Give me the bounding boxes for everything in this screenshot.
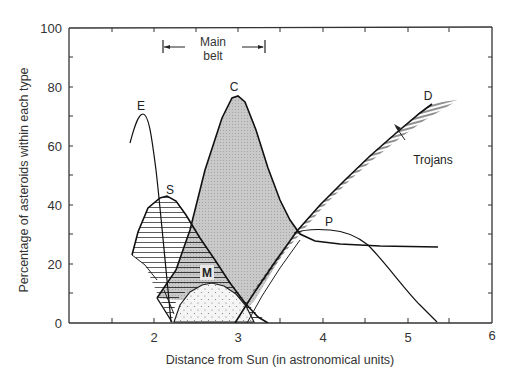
- x-tick-5: 5: [404, 330, 411, 345]
- x-axis-title: Distance from Sun (in astronomical units…: [166, 353, 395, 367]
- label-p: P: [325, 215, 333, 229]
- y-axis-title: Percentage of asteroids within each type: [17, 67, 31, 292]
- x-tick-labels: 2 3 4 5 6: [150, 328, 495, 345]
- label-trojans: Trojans: [413, 153, 453, 167]
- main-belt-label-line2: belt: [203, 49, 223, 63]
- x-tick-4: 4: [319, 330, 326, 345]
- y-tick-labels: 0 20 40 60 80 100: [40, 21, 62, 331]
- y-tick-60: 60: [48, 139, 62, 154]
- label-d: D: [424, 89, 433, 103]
- y-tick-40: 40: [48, 198, 62, 213]
- plot-frame: [69, 27, 492, 323]
- label-s: S: [166, 183, 174, 197]
- y-tick-20: 20: [48, 257, 62, 272]
- label-m: M: [202, 266, 212, 280]
- x-tick-3: 3: [234, 330, 241, 345]
- main-belt-label-line1: Main: [200, 35, 226, 49]
- label-c: C: [230, 80, 239, 94]
- x-tick-2: 2: [150, 330, 157, 345]
- y-tick-0: 0: [55, 316, 62, 331]
- curve-p: [294, 229, 437, 322]
- arrow-left-icon: [164, 45, 170, 49]
- asteroid-distribution-chart: 2 3 4 5 6 0 20 40 60 80 100 Distance fro…: [0, 0, 521, 373]
- plot-area: [130, 96, 458, 323]
- y-tick-80: 80: [48, 80, 62, 95]
- x-tick-6: 6: [488, 328, 495, 343]
- arrow-right-icon: [258, 45, 264, 49]
- label-e: E: [137, 99, 145, 113]
- main-belt-annotation: Main belt: [163, 35, 265, 63]
- y-tick-100: 100: [40, 21, 62, 36]
